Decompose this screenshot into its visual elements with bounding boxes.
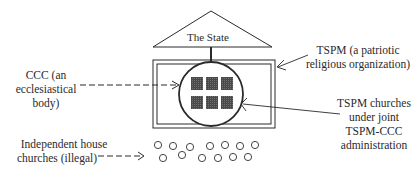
house-church-circle: [169, 142, 176, 149]
church-square: [206, 77, 218, 90]
tspm-label-line: religious organization): [298, 57, 418, 71]
house-church-circle: [198, 154, 205, 161]
house-church-circle: [244, 153, 251, 160]
church-square: [206, 96, 218, 109]
house-label-line: Independent house: [14, 137, 114, 151]
church-square: [221, 77, 233, 90]
house-church-circle: [178, 151, 185, 158]
house-church-circle: [251, 141, 258, 148]
house-churches: [154, 141, 258, 161]
church-square: [221, 96, 233, 109]
house-church-circle: [214, 154, 221, 161]
ccc-label: CCC (an ecclesiastical body): [12, 68, 80, 110]
ccc-label-line: ecclesiastical: [12, 82, 80, 96]
churches-label-line: under joint: [334, 110, 414, 124]
house-church-circle: [206, 142, 213, 149]
churches-arrow: [243, 104, 340, 114]
ccc-label-line: body): [12, 96, 80, 110]
house-church-circle: [154, 141, 161, 148]
tspm-churches-label: TSPM churches under joint TSPM-CCC admin…: [334, 96, 414, 152]
ccc-circle: [179, 62, 243, 126]
house-church-circle: [186, 143, 193, 150]
tspm-label-line: TSPM (a patriotic: [298, 43, 418, 57]
house-church-circle: [159, 154, 166, 161]
tspm-label: TSPM (a patriotic religious organization…: [298, 43, 418, 71]
churches-label-line: administration: [334, 138, 414, 152]
arrowhead-icon: [277, 60, 286, 70]
churches-label-line: TSPM churches: [334, 96, 414, 110]
house-church-circle: [229, 153, 236, 160]
churches-label-line: TSPM-CCC: [334, 124, 414, 138]
church-square: [191, 96, 203, 109]
church-square: [191, 77, 203, 90]
house-church-circle: [221, 141, 228, 148]
house-churches-label: Independent house churches (illegal): [14, 137, 114, 165]
house-label-line: churches (illegal): [0, 151, 114, 165]
state-label: The State: [187, 30, 229, 44]
ccc-label-line: CCC (an: [12, 68, 80, 82]
house-church-circle: [236, 142, 243, 149]
